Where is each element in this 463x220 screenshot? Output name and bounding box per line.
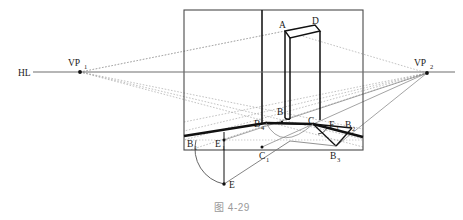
dot-C1 bbox=[261, 146, 264, 149]
label-E1-sub: 1 bbox=[222, 144, 225, 151]
label-C1-base: C bbox=[259, 151, 265, 161]
label-B: B bbox=[277, 107, 283, 117]
label-B2-sub: 2 bbox=[352, 125, 355, 132]
label-A: A bbox=[279, 20, 286, 30]
label-D-base: D bbox=[312, 16, 319, 26]
label-B3-base: B bbox=[330, 151, 336, 161]
label-vp2-sub: 2 bbox=[430, 63, 433, 70]
label-B-base: B bbox=[277, 107, 283, 117]
label-A-base: A bbox=[279, 20, 286, 30]
label-B1-base: B bbox=[187, 139, 193, 149]
label-vp1-base: VP bbox=[68, 58, 80, 68]
dot-E bbox=[222, 182, 225, 185]
dot-vp2 bbox=[425, 71, 429, 75]
label-E1-base: E bbox=[215, 139, 221, 149]
label-E: E bbox=[229, 180, 235, 190]
label-B2-base: B bbox=[345, 120, 351, 130]
label-B1-sub: 1 bbox=[194, 144, 197, 151]
label-vp2-base: VP bbox=[414, 58, 426, 68]
label-C1-sub: 1 bbox=[266, 156, 269, 163]
perspective-diagram: HL VP 1 VP 2 A D B B 4 C F 1 B bbox=[0, 0, 463, 220]
horizon-label: HL bbox=[18, 68, 31, 78]
label-F1-sub: 1 bbox=[336, 125, 339, 132]
figure-container: HL VP 1 VP 2 A D B B 4 C F 1 B bbox=[0, 0, 463, 220]
label-vp1-sub: 1 bbox=[84, 63, 87, 70]
dot-E1 bbox=[223, 139, 226, 142]
label-E-base: E bbox=[229, 180, 235, 190]
label-B4-base: B bbox=[254, 119, 260, 129]
dot-B bbox=[281, 121, 283, 123]
label-D: D bbox=[312, 16, 319, 26]
dot-vp1 bbox=[78, 70, 82, 74]
figure-caption: 图 4-29 bbox=[214, 202, 250, 213]
label-B3-sub: 3 bbox=[337, 156, 340, 163]
label-C: C bbox=[308, 116, 314, 126]
label-F1-base: F bbox=[329, 120, 334, 130]
label-C-base: C bbox=[308, 116, 314, 126]
